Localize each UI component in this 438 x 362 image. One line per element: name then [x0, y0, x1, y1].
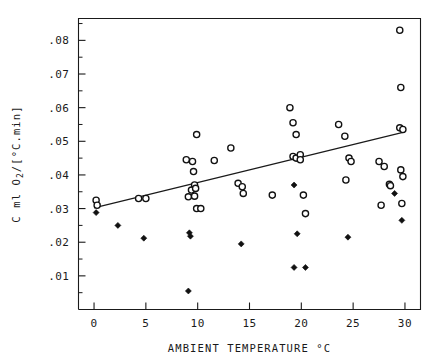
plot-frame [79, 19, 421, 310]
data-point-open [183, 157, 189, 163]
data-point-filled [115, 222, 121, 228]
data-point-open [269, 192, 275, 198]
data-point-filled [291, 182, 297, 188]
y-tick-label: .06 [48, 102, 69, 115]
data-point-open [342, 133, 348, 139]
data-point-filled [93, 210, 99, 216]
data-point-open [193, 185, 199, 191]
data-point-open [293, 131, 299, 137]
data-point-open [376, 158, 382, 164]
x-axis-major-ticks [94, 303, 405, 310]
data-point-filled [399, 217, 405, 223]
data-point-open [228, 145, 234, 151]
data-point-open [189, 158, 195, 164]
x-tick-label: 5 [142, 317, 149, 330]
y-axis-title: C ml O2/[°C.min] [10, 105, 25, 222]
data-point-open [191, 193, 197, 199]
y-axis-title-text: C ml O2/[°C.min] [10, 105, 25, 222]
y-tick-label: .03 [48, 203, 69, 216]
y-axis-minor-ticks [79, 24, 83, 293]
data-point-open [143, 195, 149, 201]
data-point-open [239, 184, 245, 190]
data-point-open [190, 168, 196, 174]
data-point-open [378, 202, 384, 208]
data-point-filled [302, 264, 308, 270]
data-point-open [290, 120, 296, 126]
data-point-filled [291, 264, 297, 270]
data-point-open [397, 27, 403, 33]
data-point-open [300, 192, 306, 198]
data-point-open [185, 194, 191, 200]
data-point-filled [392, 190, 398, 196]
axes-frame [79, 19, 421, 310]
data-point-open [400, 174, 406, 180]
data-point-open [398, 84, 404, 90]
data-point-open [297, 157, 303, 163]
y-tick-label: .05 [48, 135, 69, 148]
x-tick-label: 25 [346, 317, 360, 330]
data-point-open [387, 183, 393, 189]
data-point-open [194, 131, 200, 137]
data-point-filled [238, 241, 244, 247]
data-point-filled [294, 231, 300, 237]
data-point-open [302, 211, 308, 217]
data-point-filled [345, 234, 351, 240]
data-point-open [211, 157, 217, 163]
x-axis-title: AMBIENT TEMPERATURE °C [168, 342, 331, 354]
y-tick-label: .04 [48, 169, 69, 182]
y-tick-label: .07 [48, 68, 69, 81]
y-tick-label: .02 [48, 236, 69, 249]
data-point-open [287, 105, 293, 111]
data-point-open [399, 200, 405, 206]
data-point-open [381, 163, 387, 169]
data-point-open [398, 167, 404, 173]
x-tick-label: 15 [242, 317, 256, 330]
data-point-filled [185, 288, 191, 294]
data-point-open [240, 190, 246, 196]
data-point-open [348, 158, 354, 164]
x-tick-label: 30 [398, 317, 412, 330]
y-axis-tick-labels: .01.02.03.04.05.06.07.08 [48, 34, 69, 282]
x-axis-tick-labels: 051015202530 [90, 317, 412, 330]
data-point-open [94, 202, 100, 208]
x-tick-label: 10 [191, 317, 205, 330]
x-tick-label: 20 [294, 317, 308, 330]
data-point-open [400, 126, 406, 132]
scatter-plot-figure: .01.02.03.04.05.06.07.08 051015202530 AM… [0, 0, 438, 362]
data-point-open [336, 121, 342, 127]
x-tick-label: 0 [90, 317, 97, 330]
data-series-open-circles [93, 27, 406, 217]
y-tick-label: .08 [48, 34, 69, 47]
y-tick-label: .01 [48, 270, 69, 283]
data-point-open [198, 205, 204, 211]
plot-canvas: .01.02.03.04.05.06.07.08 051015202530 AM… [0, 0, 438, 362]
data-point-filled [141, 235, 147, 241]
data-point-open [343, 177, 349, 183]
data-point-open [136, 195, 142, 201]
